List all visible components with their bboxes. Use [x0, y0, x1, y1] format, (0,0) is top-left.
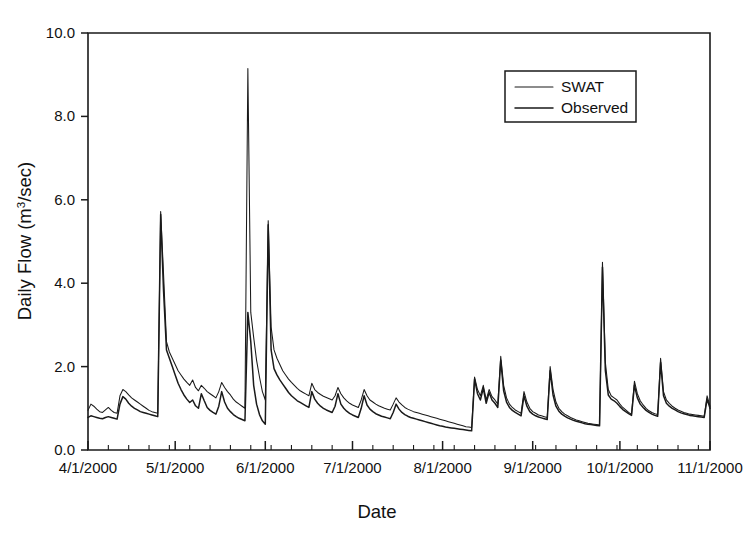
y-axis-title: Daily Flow (m3/sec)	[14, 162, 35, 321]
x-tick-label: 4/1/2000	[59, 459, 117, 476]
x-tick-label: 9/1/2000	[504, 459, 562, 476]
x-tick-label: 11/1/2000	[677, 459, 743, 476]
y-axis-title-tail: /sec)	[14, 162, 35, 202]
y-tick-label: 10.0	[46, 24, 75, 41]
y-axis-tick-labels: 0.02.04.06.08.010.0	[46, 24, 75, 458]
y-tick-label: 0.0	[54, 441, 75, 458]
x-axis-tick-labels: 4/1/20005/1/20006/1/20007/1/20008/1/2000…	[59, 459, 743, 476]
chart-figure: 0.02.04.06.08.010.0 4/1/20005/1/20006/1/…	[0, 0, 755, 541]
x-tick-label: 5/1/2000	[146, 459, 204, 476]
y-axis-title-main: Daily Flow (m	[14, 208, 35, 320]
series-observed	[88, 214, 710, 430]
y-axis-ticks	[81, 33, 88, 450]
chart-legend: SWAT Observed	[505, 71, 636, 122]
daily-flow-line-chart: 0.02.04.06.08.010.0 4/1/20005/1/20006/1/…	[0, 0, 755, 541]
x-tick-label: 6/1/2000	[236, 459, 294, 476]
data-series-group	[88, 68, 710, 430]
x-axis-title: Date	[357, 501, 396, 522]
y-tick-label: 2.0	[54, 358, 75, 375]
x-tick-label: 8/1/2000	[413, 459, 471, 476]
x-axis-ticks	[88, 441, 710, 450]
legend-label-observed: Observed	[561, 99, 628, 116]
y-axis-title-group: Daily Flow (m3/sec)	[14, 162, 35, 321]
y-tick-label: 8.0	[54, 107, 75, 124]
y-tick-label: 4.0	[54, 274, 75, 291]
legend-label-swat: SWAT	[561, 78, 605, 95]
x-tick-label: 7/1/2000	[323, 459, 381, 476]
x-tick-label: 10/1/2000	[587, 459, 654, 476]
y-tick-label: 6.0	[54, 191, 75, 208]
